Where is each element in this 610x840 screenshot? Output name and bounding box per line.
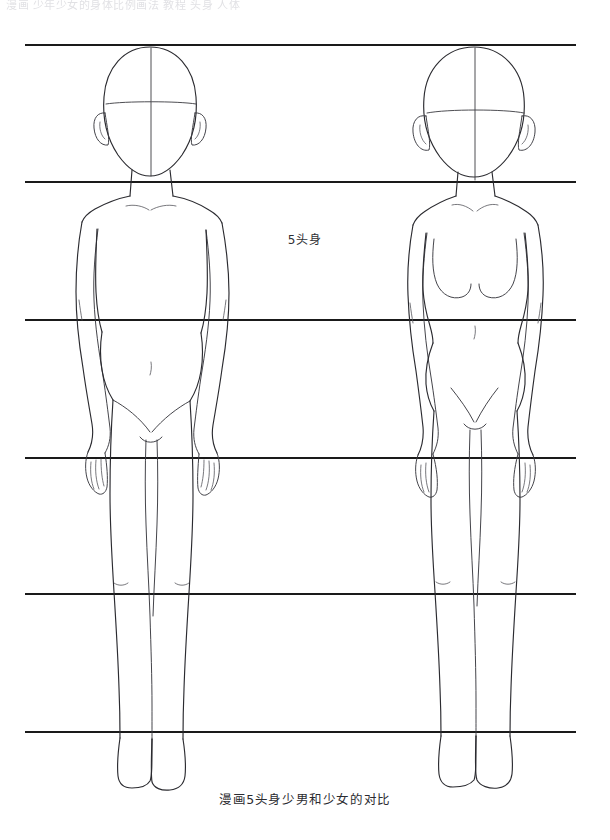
female-hand-left-fingers	[421, 463, 429, 492]
proportion-chart-artboard	[0, 0, 610, 840]
female-groin-line-left	[451, 388, 474, 422]
female-foot-right	[475, 736, 512, 788]
female-navel	[474, 326, 475, 339]
male-ear-inner-right	[195, 122, 200, 139]
female-knee-hint-right	[501, 582, 515, 584]
female-ear-inner-left	[420, 125, 426, 144]
female-groin-line-right	[476, 388, 498, 422]
male-elbow-hint-left	[79, 300, 82, 320]
female-leg-inner-left	[469, 430, 476, 736]
male-arm-outer-left	[76, 222, 93, 452]
female-head-outline	[424, 47, 525, 177]
male-crotch-curve	[140, 437, 162, 442]
female-shoulder-right	[495, 196, 538, 225]
male-hand-right-fingers	[201, 460, 214, 490]
female-hand-right-fingers	[522, 463, 530, 492]
figure-caption: 漫画5头身少男和少女的对比	[0, 789, 610, 808]
male-foot-left	[118, 738, 152, 788]
female-arm-outer-right	[528, 225, 544, 455]
female-ear-inner-right	[522, 125, 528, 144]
female-knee-hint-left	[436, 582, 450, 584]
male-groin-line-right	[152, 401, 190, 432]
female-leg-outer-left	[431, 411, 441, 736]
male-hip-right	[190, 333, 203, 401]
male-groin-line-left	[113, 400, 150, 432]
male-leg-inner-left	[145, 440, 152, 739]
female-neck-left	[456, 172, 458, 196]
male-shoulder-right	[173, 196, 222, 223]
female-hand-left	[416, 454, 438, 497]
male-leg-outer-left	[110, 400, 120, 738]
male-knee-hint-right	[175, 583, 189, 585]
male-figure	[76, 47, 229, 790]
proportion-label: 5头身	[0, 230, 610, 247]
female-figure	[408, 47, 544, 788]
male-shoulder-left	[82, 196, 130, 222]
male-collarbone-left	[126, 205, 149, 210]
male-leg-outer-right	[183, 401, 193, 739]
figure-drawing-svg	[0, 0, 610, 840]
male-head-outline	[104, 47, 197, 176]
female-breast-left	[433, 239, 471, 298]
male-collarbone-right	[151, 205, 176, 210]
male-hip-left	[101, 332, 114, 400]
male-hand-left-fingers	[91, 459, 104, 489]
female-head-eye-line	[427, 110, 524, 113]
male-arm-outer-right	[212, 223, 229, 453]
drawing-page: 漫画 少年少女的身体比例画法 教程 头身 人体	[0, 0, 610, 840]
male-foot-right	[151, 739, 185, 790]
male-navel	[150, 362, 151, 375]
male-leg-inner-right	[153, 440, 158, 616]
female-crotch-curve	[464, 424, 486, 429]
female-collarbone-right	[477, 204, 498, 211]
female-breast-right	[479, 239, 517, 298]
female-hand-right	[514, 454, 536, 497]
female-leg-outer-right	[510, 411, 520, 736]
male-elbow-hint-right	[223, 300, 226, 320]
female-shoulder-left	[413, 196, 456, 225]
male-ear-inner-left	[100, 122, 105, 139]
female-neck-right	[492, 172, 495, 196]
female-arm-inner-right	[513, 233, 529, 454]
female-arm-inner-left	[423, 233, 439, 454]
female-collarbone-left	[452, 204, 473, 211]
male-hand-right	[198, 453, 220, 495]
female-foot-left	[439, 736, 476, 787]
male-knee-hint-left	[114, 583, 128, 585]
female-arm-outer-left	[408, 225, 424, 455]
female-leg-inner-right	[477, 430, 482, 606]
